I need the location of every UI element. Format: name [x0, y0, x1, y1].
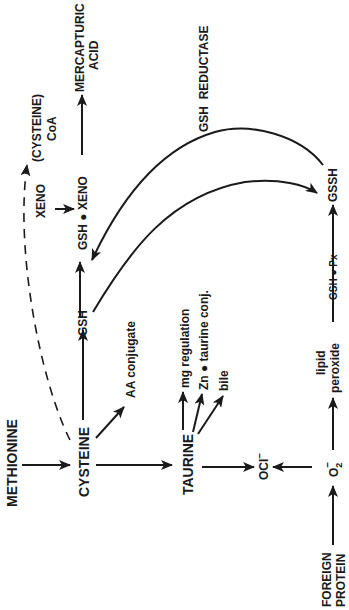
- arrow-cysteine-aa-conjugate: [96, 407, 124, 438]
- node-foreign-protein-line2: PROTEIN: [334, 554, 348, 607]
- node-o2-superoxide: O2–: [322, 462, 344, 477]
- ocl-text: OCl: [257, 459, 271, 480]
- arrow-taurine-zn: [193, 394, 202, 432]
- node-taurine: TAURINE: [180, 434, 196, 495]
- o2-text: O: [327, 468, 341, 477]
- node-mercapturic-acid-line2: ACID: [87, 40, 101, 70]
- svg-text:OCl–: OCl–: [254, 453, 271, 480]
- node-methionine: METHIONINE: [4, 419, 20, 507]
- node-zn-taurine-conj: Zn ● taurine conj.: [197, 290, 211, 390]
- node-gsh-xeno: GSH ● XENO: [76, 176, 90, 250]
- o2-subscript: 2: [334, 463, 344, 468]
- curve-gssh-to-gsh-reductase: [92, 129, 323, 260]
- node-gssh: GSSH: [326, 168, 340, 202]
- methionine-cysteine-pathway-diagram: METHIONINE CYSTEINE TAURINE OCl– O2– FOR…: [0, 0, 349, 610]
- node-mercapturic-acid-line1: MERCAPTURIC: [73, 3, 87, 92]
- node-lipid-peroxide-line2: peroxide: [328, 343, 342, 393]
- node-bile: bile: [217, 370, 231, 391]
- arrow-taurine-bile: [198, 396, 223, 434]
- o2-charge: –: [322, 462, 333, 468]
- node-aa-conjugate: AA conjugate: [124, 321, 138, 398]
- node-gsh: GSH: [76, 310, 90, 336]
- ocl-charge: –: [254, 453, 265, 459]
- node-xeno: XENO: [34, 184, 48, 218]
- node-lipid-peroxide-line1: lipid: [314, 350, 328, 375]
- node-cysteine-coa-line1: (CYSTEINE): [30, 94, 44, 162]
- label-gsh-reductase: GSH REDUCTASE: [197, 26, 211, 132]
- node-cysteine: CYSTEINE: [76, 427, 92, 497]
- node-ocl: OCl–: [254, 453, 271, 480]
- node-mg-regulation: mg regulation: [178, 309, 192, 388]
- node-cysteine-coa-line2: CoA: [45, 116, 59, 141]
- svg-text:O2–: O2–: [322, 462, 344, 477]
- label-gsh-px: GSH ● Px: [328, 254, 339, 300]
- node-foreign-protein-line1: FOREIGN: [320, 552, 334, 607]
